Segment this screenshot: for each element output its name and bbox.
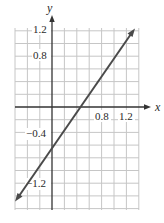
line-graph: x y 1.2 0.8 −0.4 −1.2 0.8 1.2 [0, 0, 164, 223]
x-tick-1.2: 1.2 [119, 110, 133, 122]
x-axis-arrow-icon [144, 104, 151, 109]
y-axis-label: y [46, 1, 53, 15]
y-axis-arrow-icon [49, 15, 54, 22]
y-tick-1.2: 1.2 [33, 23, 47, 35]
y-tick-neg-0.4: −0.4 [26, 127, 46, 139]
x-axis-label: x [154, 100, 161, 114]
y-tick-0.8: 0.8 [33, 49, 47, 61]
x-tick-0.8: 0.8 [95, 110, 109, 122]
